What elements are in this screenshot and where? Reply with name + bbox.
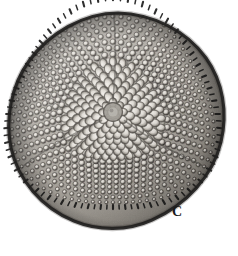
panel-label-c: C xyxy=(169,203,185,221)
micrograph-image xyxy=(0,0,238,256)
figure-panel: C triangular diatom valve (areolate frus… xyxy=(0,0,238,256)
diatom-valve-micrograph xyxy=(0,0,238,256)
